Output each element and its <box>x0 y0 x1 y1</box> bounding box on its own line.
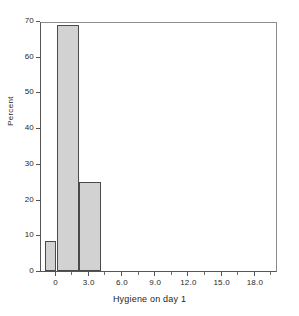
histogram-bar <box>57 25 79 271</box>
x-tick-label: 12.0 <box>180 278 196 287</box>
x-tick-mark <box>154 272 155 276</box>
y-tick-label: 30 <box>25 159 34 168</box>
y-tick-label: 70 <box>25 16 34 25</box>
x-minor-tick-mark <box>204 272 205 275</box>
bars-layer <box>41 23 276 271</box>
y-tick-label: 60 <box>25 52 34 61</box>
x-minor-tick-mark <box>104 272 105 275</box>
y-axis: 010203040506070 <box>0 22 40 272</box>
x-axis: 03.06.09.012.015.018.0 <box>40 272 277 296</box>
x-axis-title: Hygiene on day 1 <box>0 294 299 304</box>
y-tick-label: 0 <box>29 266 34 275</box>
x-tick-label: 9.0 <box>149 278 161 287</box>
x-tick-label: 15.0 <box>213 278 229 287</box>
x-tick-mark <box>55 272 56 276</box>
y-tick-label: 10 <box>25 230 34 239</box>
x-minor-tick-mark <box>138 272 139 275</box>
x-tick-label: 3.0 <box>83 278 95 287</box>
x-minor-tick-mark <box>171 272 172 275</box>
x-tick-label: 0 <box>53 278 58 287</box>
y-tick-label: 50 <box>25 87 34 96</box>
x-minor-tick-mark <box>237 272 238 275</box>
x-tick-mark <box>221 272 222 276</box>
x-tick-mark <box>254 272 255 276</box>
x-tick-mark <box>88 272 89 276</box>
x-tick-label: 18.0 <box>247 278 263 287</box>
histogram-bar <box>45 241 56 271</box>
x-minor-tick-mark <box>71 272 72 275</box>
histogram-bar <box>79 182 101 271</box>
x-tick-mark <box>187 272 188 276</box>
plot-area <box>40 22 277 272</box>
y-tick-label: 20 <box>25 195 34 204</box>
x-tick-mark <box>121 272 122 276</box>
histogram-figure: Percent 010203040506070 03.06.09.012.015… <box>0 0 299 316</box>
x-minor-tick-mark <box>270 272 271 275</box>
y-tick-label: 40 <box>25 123 34 132</box>
x-tick-label: 6.0 <box>116 278 128 287</box>
